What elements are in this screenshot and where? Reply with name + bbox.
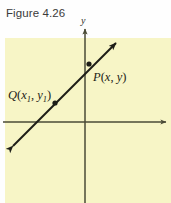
figure-container: Figure 4.26 y P(x, y) Q(x1, y1) xyxy=(0,0,171,203)
y-axis-label: y xyxy=(80,15,86,26)
point-P-label: P(x, y) xyxy=(92,70,126,84)
point-P-dot xyxy=(86,61,91,66)
point-P-letter: P xyxy=(92,70,101,84)
coordinate-graph: y P(x, y) Q(x1, y1) xyxy=(0,0,171,203)
point-Q-label: Q(x1, y1) xyxy=(8,88,51,104)
point-Q-letter: Q xyxy=(8,88,17,102)
point-Q-dot xyxy=(52,100,57,105)
